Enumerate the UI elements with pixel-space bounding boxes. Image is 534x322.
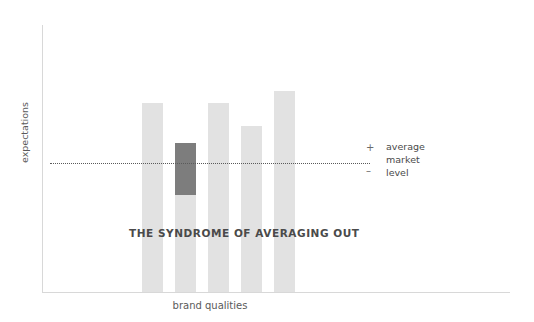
bar-1 xyxy=(142,103,163,292)
chart-title: THE SYNDROME OF AVERAGING OUT xyxy=(129,227,360,239)
bar-4 xyxy=(241,126,262,292)
plus-sign: + xyxy=(366,142,374,153)
average-market-level-line xyxy=(50,163,370,164)
bar-2-highlight xyxy=(175,143,196,195)
legend-signs: + – xyxy=(366,140,380,192)
legend-label: average market level xyxy=(386,140,425,179)
chart-canvas: THE SYNDROME OF AVERAGING OUT expectatio… xyxy=(0,0,534,322)
legend-line-1: average xyxy=(386,140,425,153)
x-axis-label: brand qualities xyxy=(0,300,420,311)
bar-3 xyxy=(208,103,229,292)
legend: + – average market level xyxy=(366,140,486,192)
minus-sign: – xyxy=(366,165,371,176)
legend-line-2: market xyxy=(386,153,425,166)
legend-line-3: level xyxy=(386,166,425,179)
bar-5 xyxy=(274,91,295,292)
y-axis-label: expectations xyxy=(19,97,30,169)
